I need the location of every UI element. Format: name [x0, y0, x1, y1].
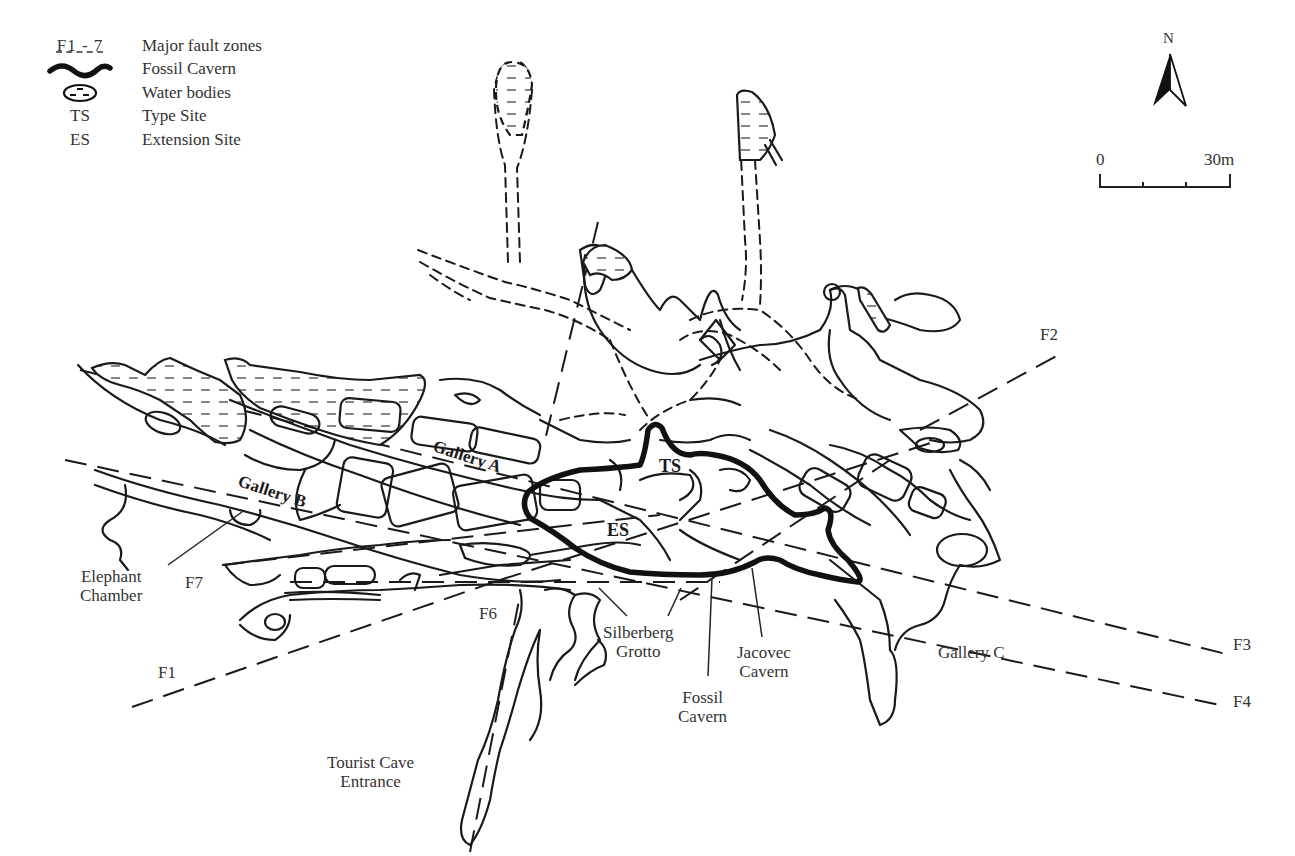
legend-row-faults: F1 - 7 Major fault zones — [30, 34, 262, 58]
legend-row-water: Water bodies — [30, 81, 262, 105]
legend-row-ts: TS Type Site — [30, 105, 262, 129]
fault-f4 — [65, 460, 1220, 705]
label-tourist-cave-entrance: Tourist Cave Entrance — [327, 753, 414, 791]
scale-start-label: 0 — [1096, 150, 1105, 170]
fault-label-f4: F4 — [1233, 692, 1251, 711]
water-body-icon — [30, 82, 130, 104]
fault-f2 — [920, 354, 1060, 430]
scale-end-label: 30m — [1204, 150, 1234, 170]
label-extension-site: ES — [607, 521, 629, 540]
fault-label-f7: F7 — [185, 573, 203, 592]
fault-label-f2: F2 — [1040, 325, 1058, 344]
label-silberberg-grotto: Silberberg Grotto — [603, 623, 674, 661]
label-gallery-c: Gallery C — [938, 643, 1005, 662]
ts-symbol: TS — [30, 106, 130, 126]
scale-bar: 0 30m — [1090, 150, 1240, 195]
fault-label-f3: F3 — [1233, 635, 1251, 654]
upper-dashed-passages — [418, 62, 860, 430]
fault-lines — [65, 222, 1230, 852]
fault-label-f1: F1 — [158, 663, 176, 682]
fault-f6 — [470, 595, 520, 852]
legend-row-es: ES Extension Site — [30, 128, 262, 152]
legend-label: Water bodies — [142, 83, 231, 103]
fault-label-f6: F6 — [479, 604, 497, 623]
legend-label: Extension Site — [142, 130, 241, 150]
legend-label: Major fault zones — [142, 36, 262, 56]
north-arrow-icon — [1150, 50, 1190, 110]
label-elephant-chamber: Elephant Chamber — [80, 567, 142, 605]
label-type-site: TS — [659, 457, 681, 476]
fossil-cavern-icon — [30, 59, 130, 79]
legend-row-fossil-cavern: Fossil Cavern — [30, 58, 262, 82]
scale-bar-icon — [1090, 172, 1240, 192]
map-legend: F1 - 7 Major fault zones Fossil Cavern W… — [30, 34, 262, 152]
fault-symbol: F1 - 7 — [30, 36, 130, 56]
north-label: N — [1163, 30, 1174, 47]
cave-outlines — [78, 245, 1000, 845]
label-jacovec-cavern: Jacovec Cavern — [737, 643, 791, 681]
es-symbol: ES — [30, 130, 130, 150]
legend-label: Fossil Cavern — [142, 59, 236, 79]
label-fossil-cavern: Fossil Cavern — [678, 688, 727, 726]
legend-label: Type Site — [142, 106, 206, 126]
